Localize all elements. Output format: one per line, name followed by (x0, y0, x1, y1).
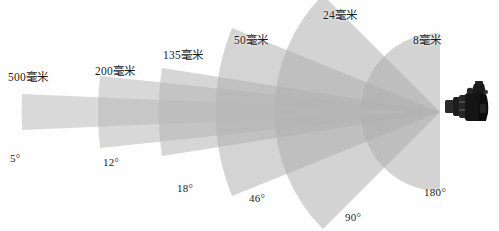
angle-label-90deg: 90° (345, 211, 361, 223)
focal-label-8mm: 8毫米 (413, 31, 442, 47)
focal-label-500mm: 500毫米 (8, 68, 49, 84)
angle-label-46deg: 46° (249, 192, 265, 204)
angle-label-12deg: 12° (103, 156, 119, 168)
focal-label-200mm: 200毫米 (95, 62, 136, 78)
focal-label-135mm: 135毫米 (163, 46, 204, 62)
dslr-camera-icon (444, 80, 496, 134)
focal-label-50mm: 50毫米 (234, 31, 269, 47)
angle-label-5deg: 5° (10, 152, 21, 164)
focal-label-24mm: 24毫米 (323, 6, 358, 22)
angle-label-180deg: 180° (424, 186, 446, 198)
angle-label-18deg: 18° (177, 182, 193, 194)
fov-diagram: 500毫米 200毫米 135毫米 50毫米 24毫米 8毫米 5° 12° 1… (0, 0, 499, 231)
